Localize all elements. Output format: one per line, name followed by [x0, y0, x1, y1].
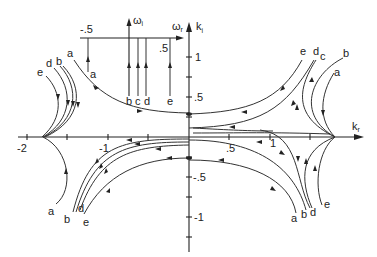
curve-label-a: a — [48, 205, 55, 217]
ki-tick-label: 1 — [195, 51, 201, 63]
inset-line-c: c — [135, 38, 141, 107]
curve-label-a: a — [67, 47, 74, 59]
ki-tick-label: .5 — [194, 91, 203, 103]
kr-axis-label: kr — [352, 120, 361, 133]
curve-label-a: a — [334, 66, 341, 78]
curve-label-d: d — [310, 206, 316, 218]
curve-label-d: d — [78, 202, 84, 214]
curve-label-d: d — [313, 45, 319, 57]
kr-axis-arrow-icon — [354, 134, 364, 140]
curve-label-c: c — [320, 50, 326, 62]
k-plane-trajectory-diagram: -2 -1 .5 1 1 .5 -.5 -1 kr ki -.5 .5 ωr ω… — [0, 0, 377, 257]
omega-r-axis-arrow-icon — [176, 36, 184, 41]
inset-line-label: d — [144, 95, 150, 107]
omega-i-axis-label: ωi — [133, 14, 144, 27]
curve-label-e: e — [300, 45, 306, 57]
curve-label-b: b — [301, 208, 307, 220]
curve-label-b: b — [56, 55, 62, 67]
curve-label-a: a — [291, 212, 298, 224]
kr-tick-label: -1 — [99, 142, 109, 154]
curve-label-b: b — [343, 47, 349, 59]
ki-tick-label: -.5 — [193, 171, 206, 183]
omega-r-axis-label: ωr — [172, 20, 184, 33]
lower-right-curves: a b d e — [189, 128, 335, 224]
omega-i-axis-arrow-icon — [127, 18, 132, 26]
omega-r-tick-label: .5 — [159, 42, 168, 54]
ki-axis-arrow-icon — [186, 22, 192, 32]
ki-tick-label: -1 — [194, 211, 204, 223]
inset-line-label: e — [167, 95, 173, 107]
curve-label-e: e — [83, 216, 89, 228]
curve-label-e: e — [324, 198, 330, 210]
inset-line-a: a — [86, 38, 97, 80]
ki-axis-label: ki — [196, 20, 204, 34]
omega-inset: -.5 .5 ωr ωi a b c d e — [80, 14, 184, 107]
inset-line-d: d — [144, 38, 150, 107]
kr-tick-label: -2 — [17, 142, 27, 154]
inset-line-label: a — [90, 68, 97, 80]
upper-right-curves: e d c b a — [189, 45, 349, 137]
kr-tick-label: 1 — [270, 137, 276, 149]
curve-label-e: e — [37, 66, 43, 78]
near-axis-left-curves: b d e — [64, 138, 192, 228]
curve-label-b: b — [64, 213, 70, 225]
curve-label-d: d — [46, 57, 52, 69]
lower-left-curve-a: a — [43, 137, 68, 217]
omega-r-tick-label: -.5 — [80, 23, 93, 35]
upper-left-curves: e d b — [37, 55, 80, 137]
inset-line-label: c — [135, 95, 141, 107]
